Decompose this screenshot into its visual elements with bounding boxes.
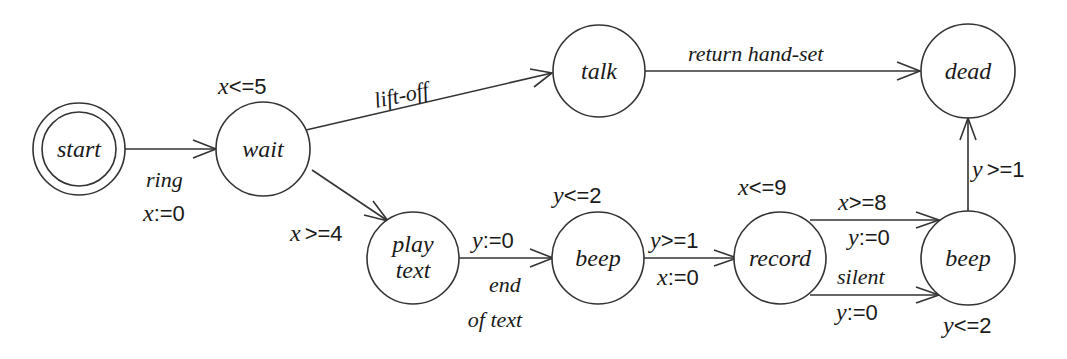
state-start-label: start <box>57 136 102 162</box>
state-dead: dead <box>921 24 1015 118</box>
label-of-text: of text <box>468 307 523 332</box>
state-talk-label: talk <box>581 58 617 84</box>
state-beep-1: beep <box>552 212 644 304</box>
state-record-label: record <box>749 245 812 271</box>
label-beep1-record-guard: y>=1 <box>648 227 699 253</box>
label-record-beep2-bottom-reset: y:=0 <box>834 299 878 325</box>
invariant-wait: x<=5 <box>217 73 267 99</box>
state-beep-2: beep <box>921 211 1015 305</box>
state-record: record <box>734 212 826 304</box>
state-play-text: play text <box>367 212 459 304</box>
label-lift-off: lift-off <box>372 76 434 112</box>
invariant-beep2: y<=2 <box>941 312 992 338</box>
state-wait-label: wait <box>242 136 285 162</box>
state-start: start <box>33 103 125 195</box>
invariant-beep1: y<=2 <box>551 182 602 208</box>
label-play-beep1-reset: y:=0 <box>470 227 514 253</box>
label-end: end <box>489 272 522 297</box>
timed-automaton-diagram: start wait talk dead play text beep reco… <box>0 0 1067 359</box>
label-beep1-record-reset: x:=0 <box>656 264 699 290</box>
state-beep2-label: beep <box>945 245 990 271</box>
label-beep2-dead-guard: y>=1 <box>970 156 1025 182</box>
state-play-label-line2: text <box>396 257 432 283</box>
label-record-beep2-top-reset: y:=0 <box>846 224 890 250</box>
label-return-hand-set: return hand-set <box>688 41 824 66</box>
label-record-beep2-guard: x>=8 <box>837 189 887 215</box>
invariant-record: x<=9 <box>737 174 787 200</box>
label-ring: ring <box>146 167 183 192</box>
state-play-label-line1: play <box>390 231 434 257</box>
state-wait: wait <box>216 102 310 196</box>
state-beep1-label: beep <box>575 245 620 271</box>
label-ring-reset: x:=0 <box>142 200 185 226</box>
label-wait-play-guard: x>=4 <box>289 220 343 246</box>
label-silent: silent <box>837 264 886 289</box>
state-talk: talk <box>553 25 645 117</box>
state-dead-label: dead <box>945 58 993 84</box>
edge-wait-play <box>312 170 388 221</box>
